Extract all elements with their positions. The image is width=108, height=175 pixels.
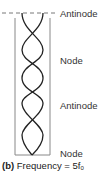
caption-subscript: 0	[80, 165, 83, 171]
node-label-upper: Node	[60, 56, 83, 66]
caption-tag: (b)	[2, 160, 14, 171]
closed-tube-diagram	[0, 0, 108, 175]
caption-text: Frequency = 5f	[17, 160, 81, 171]
antinode-label-top: Antinode	[60, 9, 98, 19]
wave-envelope-b	[22, 13, 43, 155]
node-label-bottom: Node	[60, 149, 83, 159]
figure-caption: (b) Frequency = 5f0	[2, 161, 84, 171]
antinode-label-middle: Antinode	[60, 101, 98, 111]
